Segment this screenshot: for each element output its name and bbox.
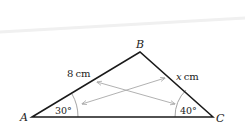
angle-label-c: 40° xyxy=(180,105,197,116)
angle-arc-a xyxy=(72,94,78,117)
angle-label-a: 30° xyxy=(55,105,72,116)
side-label-ab: 8cm xyxy=(67,68,91,79)
vertex-label-b: B xyxy=(135,38,144,51)
double-arrow-1 xyxy=(97,82,175,104)
vertex-label-a: A xyxy=(19,111,28,124)
faint-top-line xyxy=(0,18,245,32)
double-arrow-2 xyxy=(82,78,165,104)
triangle-diagram: A B C 8cm xcm 30° 40° xyxy=(0,0,245,131)
side-label-bc: xcm xyxy=(176,71,199,82)
vertex-label-c: C xyxy=(216,112,225,125)
